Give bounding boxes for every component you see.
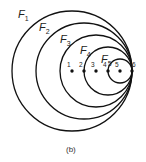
point-5 <box>118 69 121 72</box>
label-f1: F1 <box>18 8 29 22</box>
label-f3: F3 <box>60 33 71 47</box>
label-f2: F2 <box>39 21 50 35</box>
point-2 <box>82 69 85 72</box>
point-1 <box>70 69 73 72</box>
point-label-1: 1 <box>67 61 71 68</box>
point-label-2: 2 <box>79 61 83 68</box>
nested-circles-diagram: 123456 F1F2F3F4F5 (b) <box>0 0 146 162</box>
caption: (b) <box>66 145 76 154</box>
label-f4: F4 <box>80 44 91 58</box>
point-label-6: 6 <box>132 61 136 68</box>
point-4 <box>106 69 109 72</box>
point-6 <box>130 69 133 72</box>
point-label-3: 3 <box>91 61 95 68</box>
point-3 <box>94 69 97 72</box>
point-label-5: 5 <box>115 61 119 68</box>
label-f5: F5 <box>101 53 112 67</box>
